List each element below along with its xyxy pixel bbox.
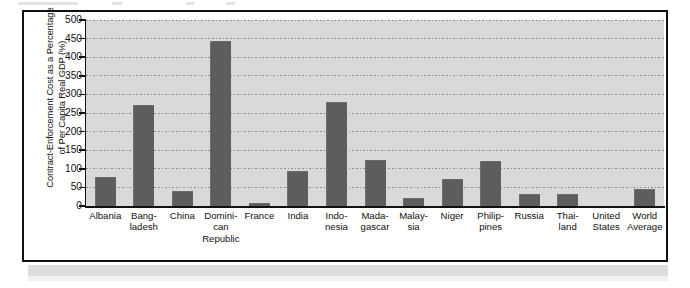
bar bbox=[519, 194, 540, 206]
x-axis-category-label: WorldAverage bbox=[618, 210, 671, 233]
x-axis-spine bbox=[85, 206, 665, 208]
bar bbox=[172, 191, 193, 206]
x-axis-category-label-group: AlbaniaBang-ladeshChinaDomini-canRepubli… bbox=[86, 210, 664, 254]
gridline bbox=[86, 131, 664, 132]
page-edge-shadow-secondary bbox=[28, 276, 668, 281]
y-axis-tick-mark bbox=[79, 94, 86, 96]
bar bbox=[210, 41, 231, 206]
bar bbox=[365, 160, 386, 207]
plot-area bbox=[86, 20, 664, 206]
bar bbox=[287, 171, 308, 206]
x-axis-category-label-line: World bbox=[618, 210, 671, 221]
scan-smudge bbox=[112, 2, 122, 5]
x-axis-category-label-line: Average bbox=[618, 221, 671, 232]
bar bbox=[249, 203, 270, 206]
y-axis-tick-mark bbox=[79, 131, 86, 133]
y-axis-tick-mark bbox=[79, 75, 86, 77]
y-axis-tick-mark bbox=[79, 205, 86, 207]
page-edge-shadow bbox=[28, 265, 668, 276]
bar bbox=[480, 161, 501, 206]
bar bbox=[557, 194, 578, 206]
bar bbox=[403, 198, 424, 206]
gridline bbox=[86, 113, 664, 114]
gridline bbox=[86, 57, 664, 58]
gridline bbox=[86, 20, 664, 21]
gridline bbox=[86, 150, 664, 151]
y-axis-tick-mark bbox=[79, 112, 86, 114]
chart-figure-frame: Contract-Enforcement Cost as a Percentag… bbox=[22, 10, 668, 262]
x-axis-category-label-line: can bbox=[195, 221, 248, 232]
scan-smudge bbox=[186, 2, 194, 5]
x-axis-category-label-line: sia bbox=[387, 221, 440, 232]
bar bbox=[634, 189, 655, 206]
gridline bbox=[86, 94, 664, 95]
x-axis-category-label-line: Republic bbox=[195, 233, 248, 244]
y-axis-tick-mark bbox=[79, 168, 86, 170]
gridline bbox=[86, 75, 664, 76]
y-axis-tick-mark bbox=[79, 56, 86, 58]
y-axis-tick-mark bbox=[79, 38, 86, 40]
scan-smudge bbox=[226, 2, 235, 5]
bar bbox=[133, 105, 154, 206]
y-axis-tick-label-group: 050100150200250300350400450500 bbox=[52, 20, 82, 206]
page-scan-artifact-strip bbox=[0, 0, 690, 9]
gridline bbox=[86, 38, 664, 39]
bar bbox=[95, 177, 116, 206]
x-axis-category-label-line: ladesh bbox=[118, 221, 171, 232]
y-axis-tick-mark bbox=[79, 187, 86, 189]
y-axis-tick-mark bbox=[79, 149, 86, 151]
bar bbox=[326, 102, 347, 206]
x-axis-category-label-line: pines bbox=[464, 221, 517, 232]
bar bbox=[442, 179, 463, 206]
y-axis-tick-mark bbox=[79, 19, 86, 21]
